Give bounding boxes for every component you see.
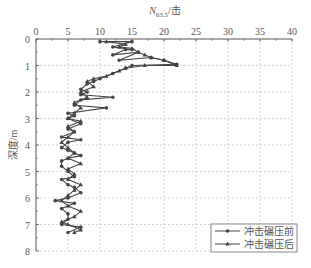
x-tick-label: 5 <box>66 26 71 37</box>
y-tick-label: 2 <box>25 87 30 98</box>
x-tick-label: 15 <box>127 26 137 37</box>
circle-marker-icon <box>79 191 83 195</box>
y-tick-label: 4 <box>25 140 30 151</box>
circle-marker-icon <box>60 164 64 168</box>
circle-marker-icon <box>111 96 115 100</box>
circle-marker-icon <box>60 146 64 150</box>
y-tick-label: 5 <box>25 167 30 178</box>
y-tick-label: 3 <box>25 114 30 125</box>
legend: 冲击碾压前 冲击碾压后 <box>211 224 297 252</box>
circle-marker-icon <box>66 231 70 235</box>
x-axis-title: N63.5/击 <box>148 5 181 19</box>
x-tick-label: 10 <box>95 26 105 37</box>
data-series <box>53 39 179 234</box>
series-before <box>53 40 178 234</box>
circle-marker-icon <box>111 53 115 57</box>
x-tick-label: 30 <box>223 26 233 37</box>
x-tick-label: 0 <box>34 26 39 37</box>
x-tick-label: 35 <box>255 26 265 37</box>
circle-marker-icon <box>73 202 77 206</box>
circle-marker-icon <box>66 212 70 216</box>
grid-lines <box>36 39 292 251</box>
circle-marker-icon <box>60 178 64 182</box>
circle-marker-icon <box>60 135 64 139</box>
circle-marker-icon <box>60 207 64 211</box>
circle-marker-icon <box>130 40 134 44</box>
x-tick-label: 40 <box>287 26 297 37</box>
circle-marker-icon <box>98 40 102 44</box>
circle-marker-icon <box>124 48 128 52</box>
circle-marker-icon <box>66 141 70 145</box>
circle-marker-icon <box>111 45 115 49</box>
y-axis-title: 深度/m <box>7 130 19 161</box>
x-tick-label: 25 <box>191 26 201 37</box>
circle-marker-icon <box>79 138 83 142</box>
y-tick-label: 6 <box>25 193 30 204</box>
legend-label: 冲击碾压后 <box>244 238 294 250</box>
circle-marker-icon <box>53 199 57 203</box>
circle-marker-icon <box>66 111 70 115</box>
y-tick-label: 0 <box>25 34 30 45</box>
circle-marker-icon <box>60 159 64 163</box>
circle-marker-icon <box>105 106 109 110</box>
y-tick-label: 7 <box>25 220 30 231</box>
x-tick-labels: 0510152025303540 <box>34 26 298 37</box>
depth-chart: 0510152025303540 012345678 N63.5/击 深度/m … <box>0 0 311 268</box>
x-tick-label: 20 <box>159 26 169 37</box>
legend-label: 冲击碾压前 <box>244 225 294 237</box>
y-tick-label: 1 <box>25 61 30 72</box>
y-tick-label: 8 <box>25 246 30 257</box>
circle-marker-icon <box>226 229 230 233</box>
circle-marker-icon <box>79 154 83 158</box>
y-tick-labels: 012345678 <box>25 34 30 257</box>
series-after <box>59 39 179 234</box>
circle-marker-icon <box>66 183 70 187</box>
circle-marker-icon <box>85 90 89 94</box>
circle-marker-icon <box>117 58 121 62</box>
